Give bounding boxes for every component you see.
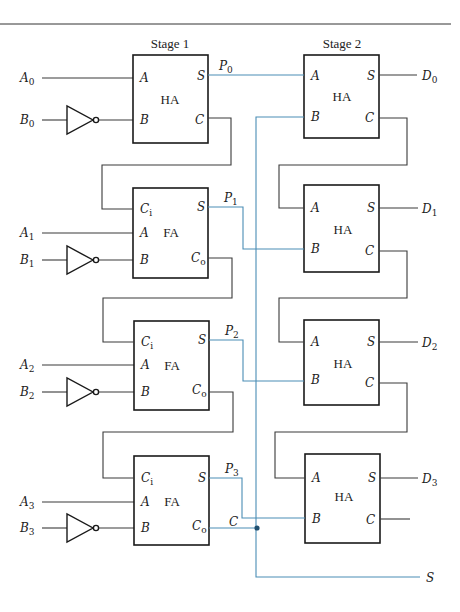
- circuit-diagram: Stage 1 Stage 2 A0 B0 A B S C HA A1 B1 C…: [0, 0, 460, 612]
- input-b2-label: B2: [19, 385, 35, 401]
- p1-label: P1: [223, 191, 238, 207]
- stage2-half-adder-1: A B S C HA D1: [304, 185, 437, 272]
- inverter-b1-icon: [67, 246, 99, 274]
- pin-s: S: [198, 333, 206, 347]
- stage1-half-adder-0: A0 B0 A B S C HA: [19, 55, 208, 143]
- pin-s: S: [367, 335, 375, 349]
- stage2-header: Stage 2: [323, 36, 362, 51]
- stage1-full-adder-1: A1 B1 Ci A B S Co FA: [19, 188, 208, 278]
- carry-out-label: C: [229, 515, 238, 529]
- pin-c: C: [195, 113, 204, 127]
- pin-s: S: [367, 69, 375, 83]
- block-type: FA: [163, 225, 179, 240]
- stage2-half-adder-2: A B S C HA D2: [304, 320, 437, 405]
- pin-b: B: [310, 110, 320, 124]
- stage1-full-adder-3: A3 B3 Ci A B S Co FA: [19, 456, 209, 545]
- pin-s: S: [368, 471, 376, 485]
- wire-p3: [209, 478, 305, 518]
- pin-b: B: [140, 385, 150, 399]
- p2-label: P2: [224, 324, 239, 340]
- pin-a: A: [140, 495, 150, 509]
- stage2-half-adder-3: A B S C HA D3: [305, 454, 438, 543]
- input-b0-label: B0: [19, 113, 35, 129]
- stage1-full-adder-2: A2 B2 Ci A B S Co FA: [19, 321, 209, 410]
- pin-a: A: [310, 201, 320, 215]
- pin-s: S: [367, 201, 375, 215]
- output-d1-label: D1: [421, 202, 437, 218]
- output-d0-label: D0: [421, 69, 438, 85]
- p3-label: P3: [224, 462, 239, 478]
- pin-s: S: [198, 471, 206, 485]
- stage2-half-adder-0: A B S C HA D0: [304, 55, 438, 138]
- pin-a: A: [140, 358, 150, 372]
- pin-a: A: [310, 335, 320, 349]
- pin-b: B: [139, 113, 149, 127]
- input-a1-label: A1: [19, 226, 34, 242]
- pin-a: A: [311, 471, 321, 485]
- block-type: FA: [164, 494, 180, 509]
- p0-label: P0: [218, 59, 233, 75]
- input-b3-label: B3: [19, 521, 35, 537]
- junction-dot: [254, 525, 259, 530]
- sign-output-label: S: [426, 571, 434, 585]
- pin-b: B: [140, 521, 150, 535]
- pin-b: B: [310, 242, 320, 256]
- input-a0-label: A0: [19, 71, 35, 87]
- inverter-b0-icon: [67, 106, 99, 134]
- pin-s: S: [197, 69, 205, 83]
- block-type: HA: [334, 222, 353, 237]
- pin-a: A: [139, 71, 149, 85]
- pin-c: C: [365, 376, 374, 390]
- stage1-header: Stage 1: [151, 36, 190, 51]
- pin-c: C: [365, 111, 374, 125]
- block-type: HA: [161, 92, 180, 107]
- block-type: FA: [164, 358, 180, 373]
- pin-c: C: [366, 513, 375, 527]
- output-d3-label: D3: [421, 472, 438, 488]
- pin-b: B: [311, 512, 321, 526]
- pin-a: A: [139, 226, 149, 240]
- input-a2-label: A2: [19, 358, 34, 374]
- pin-b: B: [139, 253, 149, 267]
- inverter-b3-icon: [67, 514, 99, 542]
- block-type: HA: [335, 489, 354, 504]
- inverter-b2-icon: [67, 378, 99, 406]
- input-b1-label: B1: [19, 253, 35, 269]
- block-type: HA: [333, 89, 352, 104]
- input-a3-label: A3: [19, 495, 35, 511]
- pin-s: S: [197, 200, 205, 214]
- pin-a: A: [310, 69, 320, 83]
- pin-c: C: [365, 244, 374, 258]
- output-d2-label: D2: [421, 336, 437, 352]
- block-type: HA: [334, 356, 353, 371]
- pin-b: B: [310, 373, 320, 387]
